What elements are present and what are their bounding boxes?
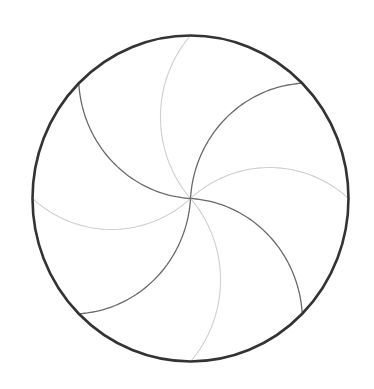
spiral-arm-dark — [79, 199, 191, 314]
pinwheel-diagram — [0, 0, 374, 389]
spiral-arms — [33, 36, 349, 362]
spiral-arm-dark — [191, 199, 303, 314]
spiral-arm-dark — [191, 83, 303, 198]
spiral-arm-light — [160, 36, 190, 199]
spiral-arm-dark — [79, 83, 191, 198]
spiral-arm-light — [191, 168, 349, 199]
spiral-arm-light — [33, 199, 191, 230]
spiral-arm-light — [191, 199, 221, 362]
